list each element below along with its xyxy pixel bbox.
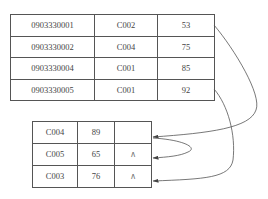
link-arrows [0,0,268,199]
link-arrow-c004-to-c005 [153,138,191,158]
link-arrow-row4-to-c003 [153,89,234,181]
link-arrow-row1-to-c004 [153,25,257,137]
